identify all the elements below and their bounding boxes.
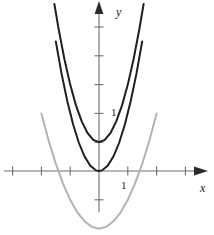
coordinate-plot	[0, 0, 214, 235]
y-axis-arrow-icon	[95, 1, 104, 14]
parabola-graph-figure: y x 1 1	[0, 0, 214, 235]
x-axis-label: x	[200, 182, 205, 194]
y-axis-tick-label-one: 1	[111, 107, 117, 118]
y-axis-label: y	[116, 6, 121, 18]
x-axis-tick-label-one: 1	[121, 180, 127, 191]
x-axis-arrow-icon	[194, 167, 208, 176]
